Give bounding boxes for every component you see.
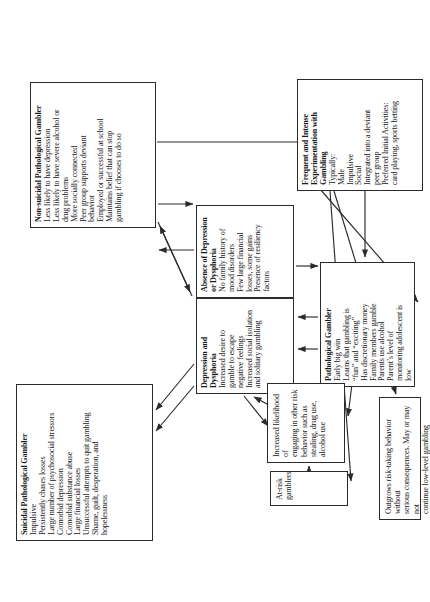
node-body: Outgrows risk-taking behavior without se… [384,403,430,514]
node-body: Increased likelihood of engaging in othe… [272,389,327,457]
node-suicidal-pathological-gambler[interactable]: Suicidal Pathological Gambler Impulsive … [16,384,153,541]
node-frequent-and-intense-experimentation[interactable]: Frequent and Intense Experimentation wit… [297,79,423,191]
list-item: Preferred Initial Activities: card playi… [382,85,400,185]
node-item-list: No family history of mood disorders Few … [219,211,272,292]
edge-nonsuicidal-to-depression [158,222,190,292]
list-item: No family history of mood disorders [219,211,237,292]
list-item: Integrated into a deviant peer group [364,85,382,185]
list-item: Increased desire to gamble to escape neg… [219,304,245,388]
edge-depression-to-suicidal-2 [156,386,194,431]
list-item: Shame, guilt, desperation, and hopelessn… [92,390,110,535]
node-absence-of-depression[interactable]: Absence of Depression or Dysphoria No fa… [196,205,294,298]
edge-depression-to-suicidal [156,364,194,410]
node-item-list: Impulsive Persistently chases losses Lar… [30,390,109,535]
node-item-list: Typically: Male Impulsive Social Integra… [329,85,400,185]
list-item: Maintains belief that can stop gambling … [106,88,124,222]
node-title: Frequent and Intense Experimentation wit… [302,85,328,185]
node-title: Absence of Depression or Dysphoria [201,211,219,292]
node-item-list: Early big win Learns that gambling is “f… [334,268,413,381]
node-item-list: Less likely to have depression Less like… [44,88,123,222]
node-non-suicidal-pathological-gambler[interactable]: Non-suicidal Pathological Gambler Less l… [30,82,156,228]
node-item-list: Increased desire to gamble to escape neg… [219,304,263,388]
edge-pathological-to-increased [348,384,352,416]
list-item: Few large financial losses, some gains [237,211,255,292]
list-item: Parent’s level of monitoring adolescent … [387,268,413,381]
node-depression-and-dysphoria[interactable]: Depression and Dysphoria Increased desir… [196,298,294,394]
list-item: Learns that gambling is “fun” and “excit… [343,268,361,381]
node-increased-likelihood-risk-behavior[interactable]: Increased likelihood of engaging in othe… [267,383,345,463]
edge-depression-to-increased [244,396,268,426]
list-item: Less likely to have severe alcohol or dr… [53,88,71,222]
list-item: Presence of resiliency factors [254,211,272,292]
node-title: Depression and Dysphoria [201,304,219,388]
list-item: Peer group supports deviant behavior [80,88,98,222]
node-outgrows-risk-taking-behavior[interactable]: Outgrows risk-taking behavior without se… [379,397,421,520]
node-at-risk-gamblers[interactable]: At-risk gamblers [270,471,348,506]
node-pathological-gambler[interactable]: Pathological Gambler Early big win Learn… [320,262,415,387]
node-body: At-risk gamblers [275,477,293,500]
list-item: Increased social isolation and solitary … [246,304,264,388]
